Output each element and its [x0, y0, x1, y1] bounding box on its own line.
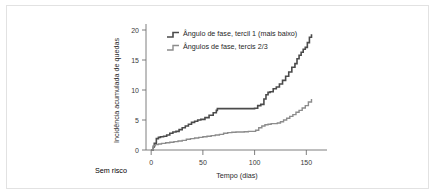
- y-tick-label: 15: [131, 57, 139, 64]
- legend-marker-tercis-23: [167, 46, 179, 51]
- x-axis-title: Tempo (dias): [216, 171, 258, 180]
- x-tick-label: 100: [249, 159, 261, 166]
- figure-container: 05101520 050100150 Incidência acumulada …: [0, 0, 435, 194]
- series-group: [151, 34, 311, 150]
- y-axis-title: Incidência acumulada de quedas: [112, 38, 121, 143]
- y-tick-label: 20: [131, 27, 139, 34]
- caption-sem-risco: Sem risco: [95, 166, 127, 175]
- y-axis-ticks: 05101520: [131, 27, 146, 154]
- y-tick-label: 0: [135, 147, 139, 154]
- y-tick-label: 5: [135, 117, 139, 124]
- legend: Ângulo de fase, tercil 1 (mais baixo) Ân…: [167, 29, 297, 51]
- figure-frame: 05101520 050100150 Incidência acumulada …: [6, 5, 429, 189]
- cumulative-incidence-chart: 05101520 050100150 Incidência acumulada …: [7, 6, 428, 188]
- x-tick-label: 0: [149, 159, 153, 166]
- legend-entry-tercil-1: Ângulo de fase, tercil 1 (mais baixo): [167, 29, 297, 38]
- series-line-1: [151, 99, 311, 150]
- legend-marker-tercil-1: [167, 33, 179, 38]
- x-axis-ticks: 050100150: [149, 150, 312, 166]
- legend-label-tercil-1: Ângulo de fase, tercil 1 (mais baixo): [183, 29, 297, 38]
- x-tick-label: 50: [199, 159, 207, 166]
- legend-entry-tercis-23: Ângulos de fase, tercis 2/3: [167, 42, 268, 51]
- y-tick-label: 10: [131, 87, 139, 94]
- legend-label-tercis-23: Ângulos de fase, tercis 2/3: [183, 42, 268, 51]
- x-tick-label: 150: [300, 159, 312, 166]
